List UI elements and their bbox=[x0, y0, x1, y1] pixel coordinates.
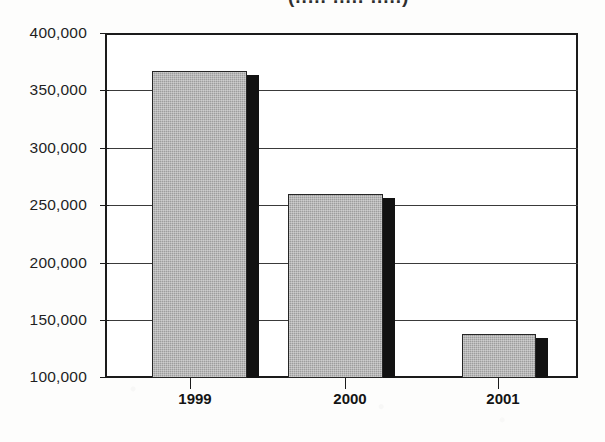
bar-body-2001 bbox=[462, 334, 536, 378]
ytick-mark-100000 bbox=[100, 377, 109, 378]
xtick-label-1999: 1999 bbox=[155, 390, 235, 407]
ytick-mark-350000 bbox=[100, 90, 109, 91]
ytick-label-400000: 400,000 bbox=[30, 24, 87, 42]
bar-1999[interactable] bbox=[152, 33, 259, 378]
ytick-label-100000: 100,000 bbox=[30, 368, 87, 386]
bar-body-1999 bbox=[152, 71, 247, 378]
bar-2000[interactable] bbox=[288, 33, 395, 378]
xtick-mark-2000 bbox=[345, 378, 346, 389]
ytick-mark-250000 bbox=[100, 205, 109, 206]
ytick-label-150000: 150,000 bbox=[30, 311, 87, 329]
xtick-label-2001: 2001 bbox=[463, 390, 543, 407]
ytick-mark-300000 bbox=[100, 148, 109, 149]
ytick-label-200000: 200,000 bbox=[30, 254, 87, 272]
xtick-mark-1999 bbox=[190, 378, 191, 389]
ytick-mark-150000 bbox=[100, 320, 109, 321]
ytick-label-250000: 250,000 bbox=[30, 196, 87, 214]
bar-chart: 400,000 350,000 300,000 250,000 200,000 … bbox=[0, 0, 605, 442]
xtick-mark-2001 bbox=[498, 378, 499, 389]
ytick-label-300000: 300,000 bbox=[30, 139, 87, 157]
xtick-label-2000: 2000 bbox=[310, 390, 390, 407]
ytick-mark-200000 bbox=[100, 263, 109, 264]
bar-2001[interactable] bbox=[462, 33, 548, 378]
ytick-label-350000: 350,000 bbox=[30, 81, 87, 99]
ytick-mark-400000 bbox=[100, 33, 109, 34]
bar-body-2000 bbox=[288, 194, 383, 378]
